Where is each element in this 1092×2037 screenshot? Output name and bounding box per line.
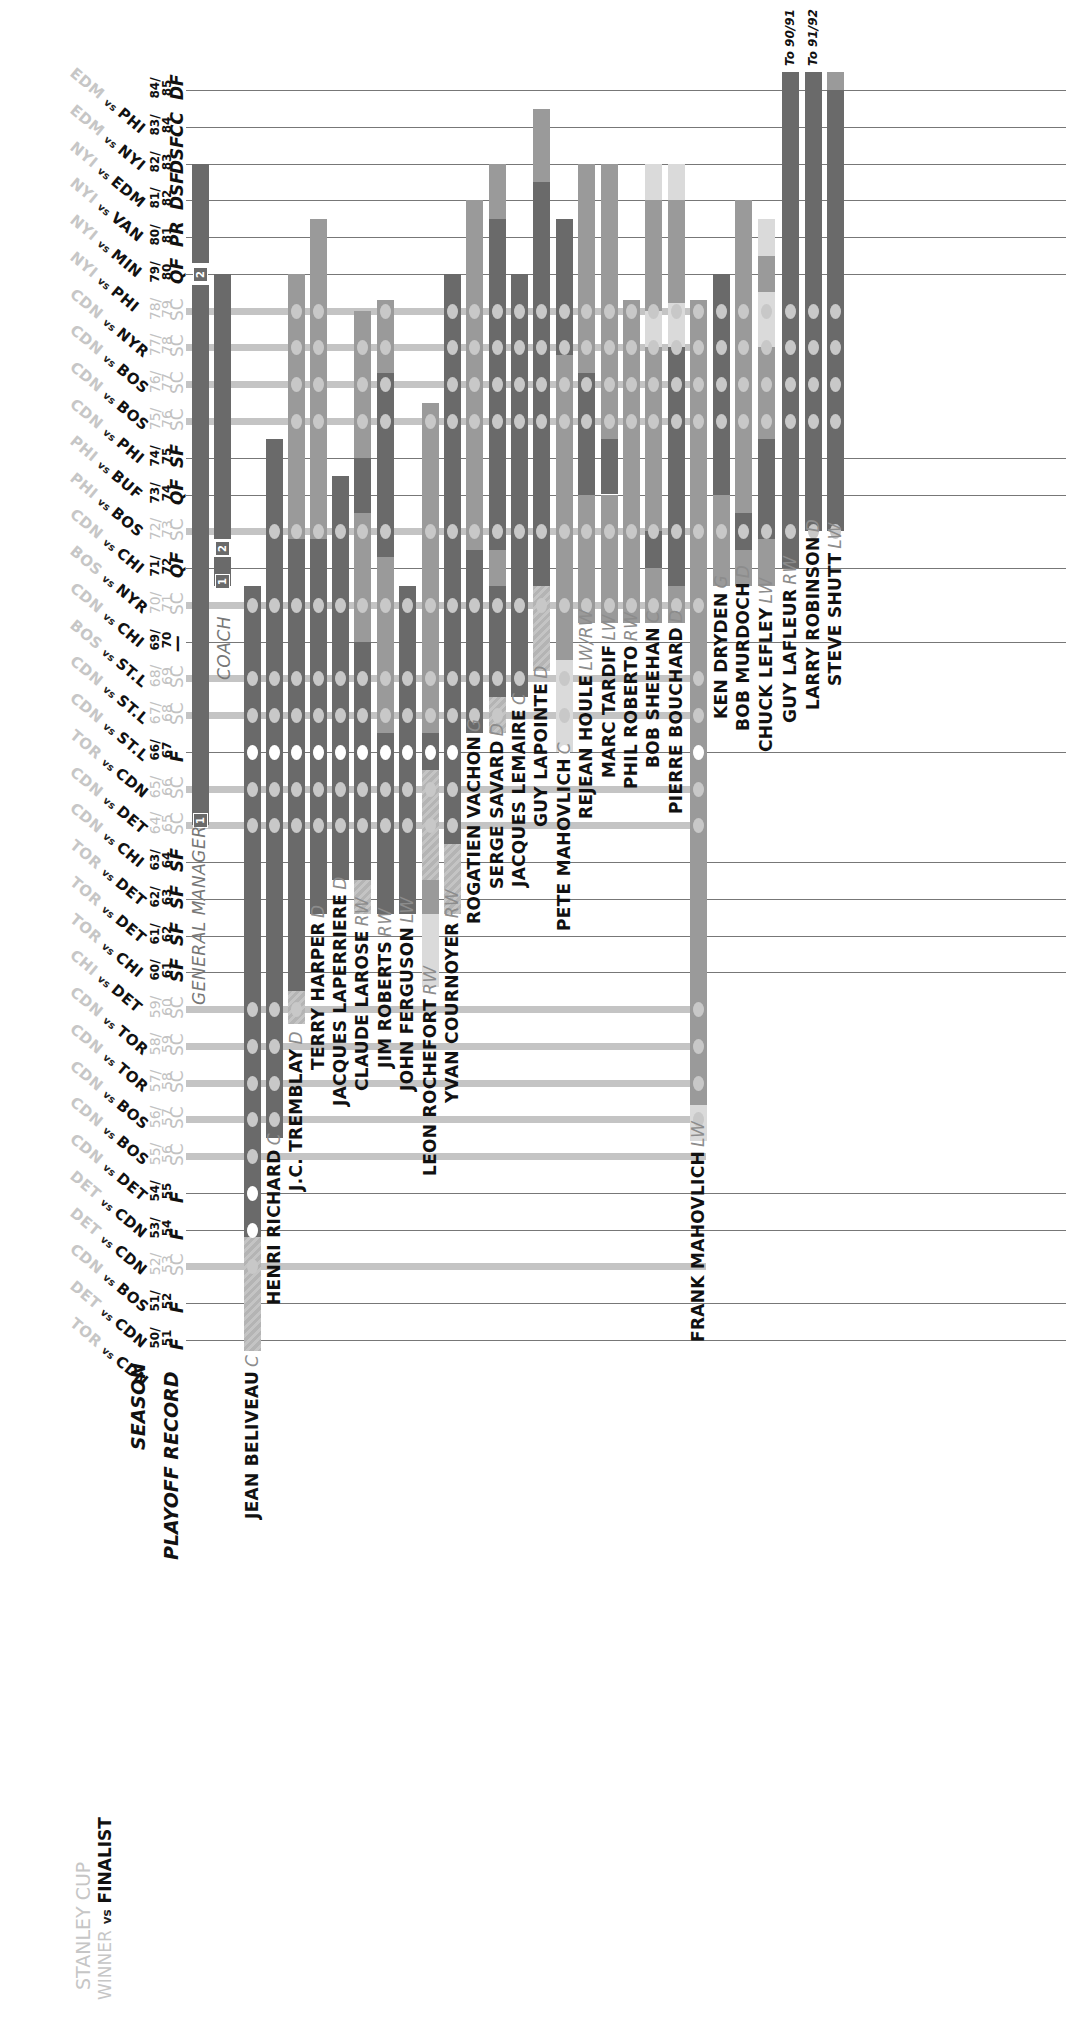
player-position: D bbox=[286, 1032, 306, 1045]
cup-final-dot bbox=[269, 745, 280, 760]
bar-segment bbox=[310, 539, 327, 914]
cup-win-dot bbox=[581, 304, 592, 319]
stanley-cup-header: STANLEY CUP bbox=[72, 1862, 94, 1990]
bar-segment bbox=[511, 274, 528, 697]
cup-win-dot bbox=[626, 598, 637, 613]
cup-win-dot bbox=[830, 304, 841, 319]
player-position: LW bbox=[688, 1121, 708, 1147]
cup-win-dot bbox=[785, 414, 796, 429]
bar-leon-rochefort bbox=[422, 403, 439, 987]
player-name-ken-dryden: KEN DRYDENG bbox=[711, 575, 731, 719]
playoff-record-value: F bbox=[167, 1310, 187, 1350]
player-position: C bbox=[242, 1354, 262, 1366]
cup-win-dot bbox=[247, 598, 258, 613]
finalist-team: PHI bbox=[114, 104, 149, 137]
finalist-team: CHI bbox=[113, 838, 148, 871]
cup-win-dot bbox=[693, 708, 704, 723]
player-name-jacques-laperriere: JACQUES LAPERRIERED bbox=[330, 876, 350, 1106]
cup-win-dot bbox=[425, 598, 436, 613]
cup-win-dot bbox=[291, 782, 302, 797]
playoff-record-value: SC bbox=[167, 979, 187, 1019]
cup-final-dot bbox=[402, 745, 413, 760]
bar-chuck-lefley bbox=[758, 219, 775, 587]
cup-win-dot bbox=[402, 708, 413, 723]
player-name-henri-richard: HENRI RICHARDC bbox=[264, 1133, 284, 1305]
bar-segment bbox=[377, 557, 394, 733]
career-end-note: To 91/92 bbox=[806, 9, 820, 66]
cup-win-dot bbox=[447, 304, 458, 319]
cup-win-dot bbox=[693, 304, 704, 319]
cup-win-dot bbox=[269, 1076, 280, 1091]
cup-win-dot bbox=[492, 598, 503, 613]
playoff-record-header: PLAYOFF RECORD bbox=[160, 1372, 182, 1560]
player-name-j-c-tremblay: J.C. TREMBLAYD bbox=[286, 1032, 306, 1192]
cup-win-dot bbox=[357, 414, 368, 429]
cup-win-dot bbox=[469, 598, 480, 613]
bar-segment bbox=[645, 347, 662, 531]
player-position: D bbox=[531, 665, 551, 678]
bar-jean-beliveau bbox=[244, 586, 261, 1351]
bar-jim-roberts bbox=[377, 300, 394, 914]
cup-win-dot bbox=[447, 782, 458, 797]
finalist-team: MIN bbox=[108, 246, 146, 282]
playoff-record-value: SC bbox=[167, 391, 187, 431]
cup-final-dot bbox=[693, 745, 704, 760]
cup-win-dot bbox=[492, 414, 503, 429]
cup-win-dot bbox=[335, 782, 346, 797]
bar-guy-lapointe bbox=[533, 109, 550, 671]
term-marker: 2 bbox=[193, 267, 208, 282]
bar-pete-mahovlich bbox=[556, 219, 573, 752]
bar-bob-murdoch bbox=[735, 200, 752, 586]
bar-segment bbox=[758, 256, 775, 293]
bar-segment bbox=[601, 439, 618, 494]
bar-segment bbox=[827, 72, 844, 90]
bar-ken-dryden bbox=[713, 274, 730, 586]
cup-win-dot bbox=[626, 414, 637, 429]
cup-win-dot bbox=[671, 414, 682, 429]
player-name-larry-robinson: LARRY ROBINSOND bbox=[803, 519, 823, 710]
cup-win-dot bbox=[313, 782, 324, 797]
cup-win-dot bbox=[269, 598, 280, 613]
player-position: LW bbox=[756, 578, 776, 604]
cup-win-dot bbox=[447, 414, 458, 429]
bar-segment bbox=[556, 355, 573, 660]
playoff-record-value: SC bbox=[167, 1126, 187, 1166]
cup-win-dot bbox=[380, 708, 391, 723]
cup-win-dot bbox=[716, 414, 727, 429]
cup-win-dot bbox=[693, 414, 704, 429]
bar-pierre-bouchard bbox=[668, 164, 685, 624]
player-name-yvan-cournoyer: YVAN COURNOYERRW bbox=[442, 889, 462, 1103]
player-name-rogatien-vachon: ROGATIEN VACHONG bbox=[464, 718, 484, 924]
cup-win-dot bbox=[648, 414, 659, 429]
player-name-jim-roberts: JIM ROBERTSRW bbox=[375, 908, 395, 1068]
player-name-rejean-houle: REJEAN HOULELW/RW bbox=[576, 609, 596, 819]
cup-win-dot bbox=[626, 304, 637, 319]
cup-win-dot bbox=[536, 598, 547, 613]
cup-win-dot bbox=[469, 414, 480, 429]
bar-segment bbox=[735, 200, 752, 512]
cup-win-dot bbox=[693, 782, 704, 797]
player-name-jacques-lemaire: JACQUES LEMAIREC bbox=[509, 693, 529, 887]
bar-yvan-cournoyer bbox=[444, 274, 461, 914]
cup-final-dot bbox=[425, 745, 436, 760]
player-name-phil-roberto: PHIL ROBERTORW bbox=[621, 612, 641, 789]
cup-final-dot bbox=[380, 745, 391, 760]
bar-segment bbox=[466, 200, 483, 549]
cup-final-dot bbox=[313, 745, 324, 760]
cup-win-dot bbox=[247, 1076, 258, 1091]
bar-segment bbox=[192, 164, 209, 263]
bar-coach bbox=[214, 274, 231, 586]
bar-rejean-houle bbox=[578, 164, 595, 624]
cup-win-dot bbox=[313, 414, 324, 429]
cup-win-dot bbox=[559, 708, 570, 723]
bar-henri-richard bbox=[266, 439, 283, 1137]
player-name-claude-larose: CLAUDE LAROSERW bbox=[352, 897, 372, 1091]
playoff-record-value: SC bbox=[167, 354, 187, 394]
bar-segment bbox=[556, 219, 573, 355]
bar-segment bbox=[645, 164, 662, 201]
cup-final-dot bbox=[447, 745, 458, 760]
cup-win-dot bbox=[357, 782, 368, 797]
player-position: RW bbox=[352, 897, 372, 926]
player-name-terry-harper: TERRY HARPERD bbox=[308, 904, 328, 1069]
bar-segment bbox=[489, 164, 506, 219]
